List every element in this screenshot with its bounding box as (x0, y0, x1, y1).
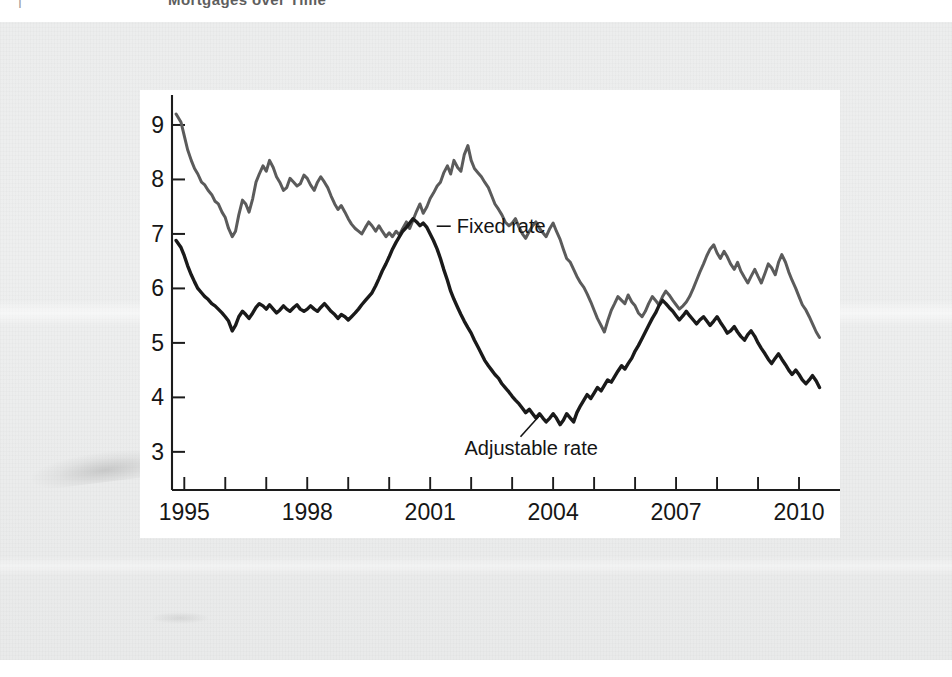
caption-strip: | Mortgages over Time (0, 0, 952, 14)
y-tick-label: 7 (151, 221, 164, 247)
y-tick-label: 5 (151, 330, 164, 356)
x-tick-label: 1998 (282, 499, 333, 525)
y-tick-label: 9 (151, 112, 164, 138)
x-tick-label: 2004 (528, 499, 579, 525)
adjustable-rate-leader-line (520, 417, 538, 437)
x-tick-label: 1995 (159, 499, 210, 525)
plot-panel: 3456789199519982001200420072010YearPerce… (140, 90, 840, 538)
y-tick-label: 4 (151, 384, 164, 410)
y-tick-label: 6 (151, 275, 164, 301)
x-tick-label: 2010 (773, 499, 824, 525)
figure-page: | Mortgages over Time 345678919951998200… (0, 0, 952, 677)
x-tick-label: 2007 (650, 499, 701, 525)
figure-caption: Mortgages over Time (168, 0, 326, 8)
fixed-rate-annotation: Fixed rate (457, 215, 546, 237)
series-line-adjustable-rate (176, 219, 819, 425)
adjustable-rate-annotation: Adjustable rate (464, 437, 597, 459)
mortgage-rates-line-chart: 3456789199519982001200420072010YearPerce… (140, 90, 840, 538)
y-tick-label: 3 (151, 439, 164, 465)
y-tick-label: 8 (151, 166, 164, 192)
x-tick-label: 2001 (405, 499, 456, 525)
caption-bullet: | (18, 0, 22, 8)
